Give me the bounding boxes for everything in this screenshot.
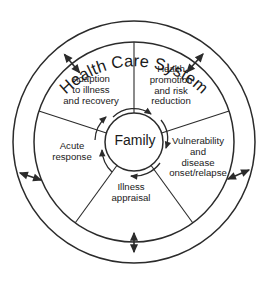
segment-label-acute-response[interactable]: Acute response <box>40 141 104 163</box>
exchange-arrow-left <box>20 173 41 180</box>
health-care-system-diagram: Health Care System Adaption to illness a… <box>0 0 266 283</box>
spoke-upper-left <box>39 111 107 133</box>
segment-label-adaption[interactable]: Adaption to illness and recovery <box>54 74 128 106</box>
center-label-family[interactable]: Family <box>104 133 166 148</box>
flow-arrow-to-illness-appraisal <box>131 163 160 176</box>
exchange-arrow-top-left <box>65 55 80 73</box>
spoke-upper-right <box>162 111 230 133</box>
segment-label-vulnerability[interactable]: Vulnerability and disease onset/relapse <box>160 136 236 179</box>
segment-label-health-promotion[interactable]: Health promotion and risk reduction <box>138 64 204 107</box>
segment-label-illness-appraisal[interactable]: Illness appraisal <box>96 182 166 204</box>
